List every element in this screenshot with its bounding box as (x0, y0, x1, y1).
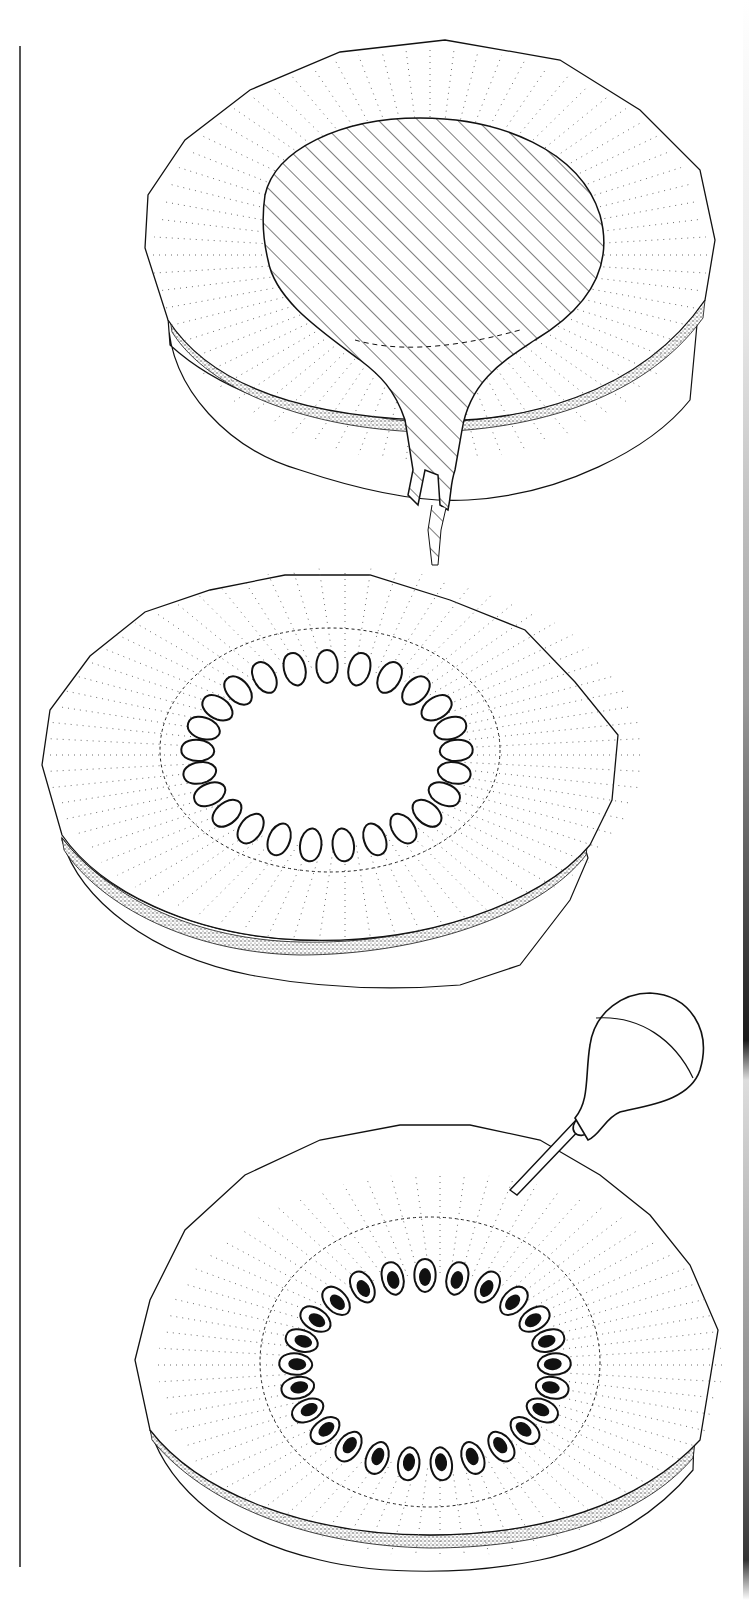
figure-canvas: Three-stage illustration of a stem disk … (0, 0, 749, 1600)
filled-hole (414, 1259, 435, 1292)
panel-1 (145, 40, 715, 565)
panel-2 (42, 568, 642, 988)
empty-hole (316, 650, 337, 683)
panel-3 (135, 993, 722, 1571)
dropper-pipette-icon (510, 993, 703, 1195)
root-tail (428, 505, 446, 565)
illustration (0, 0, 749, 1600)
dropper-bulb (575, 993, 703, 1140)
